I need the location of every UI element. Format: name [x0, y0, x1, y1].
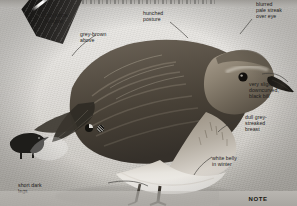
annotation-belly: white belly in winter — [212, 155, 237, 167]
annotation-bill: very slightly downcurved, black bill — [249, 81, 279, 100]
pale-flying-sandpiper-silhouette — [28, 133, 70, 163]
annotation-wingbar: thin white wingbar — [45, 12, 67, 24]
note-bar[interactable]: NOTE — [219, 191, 297, 206]
note-label: NOTE — [248, 196, 267, 202]
annotation-eyestripe: blurred pale streak over eye — [256, 1, 282, 20]
annotation-posture: hunched posture — [143, 10, 163, 22]
annotation-upperparts: grey-brown above — [80, 31, 106, 43]
annotation-breast: dull grey- streaked breast — [245, 114, 267, 133]
pie-circle-icon[interactable] — [85, 124, 93, 132]
field-guide-page: thin white wingbar grey-brown above hunc… — [0, 0, 297, 206]
hatched-circle-icon[interactable] — [97, 125, 104, 132]
